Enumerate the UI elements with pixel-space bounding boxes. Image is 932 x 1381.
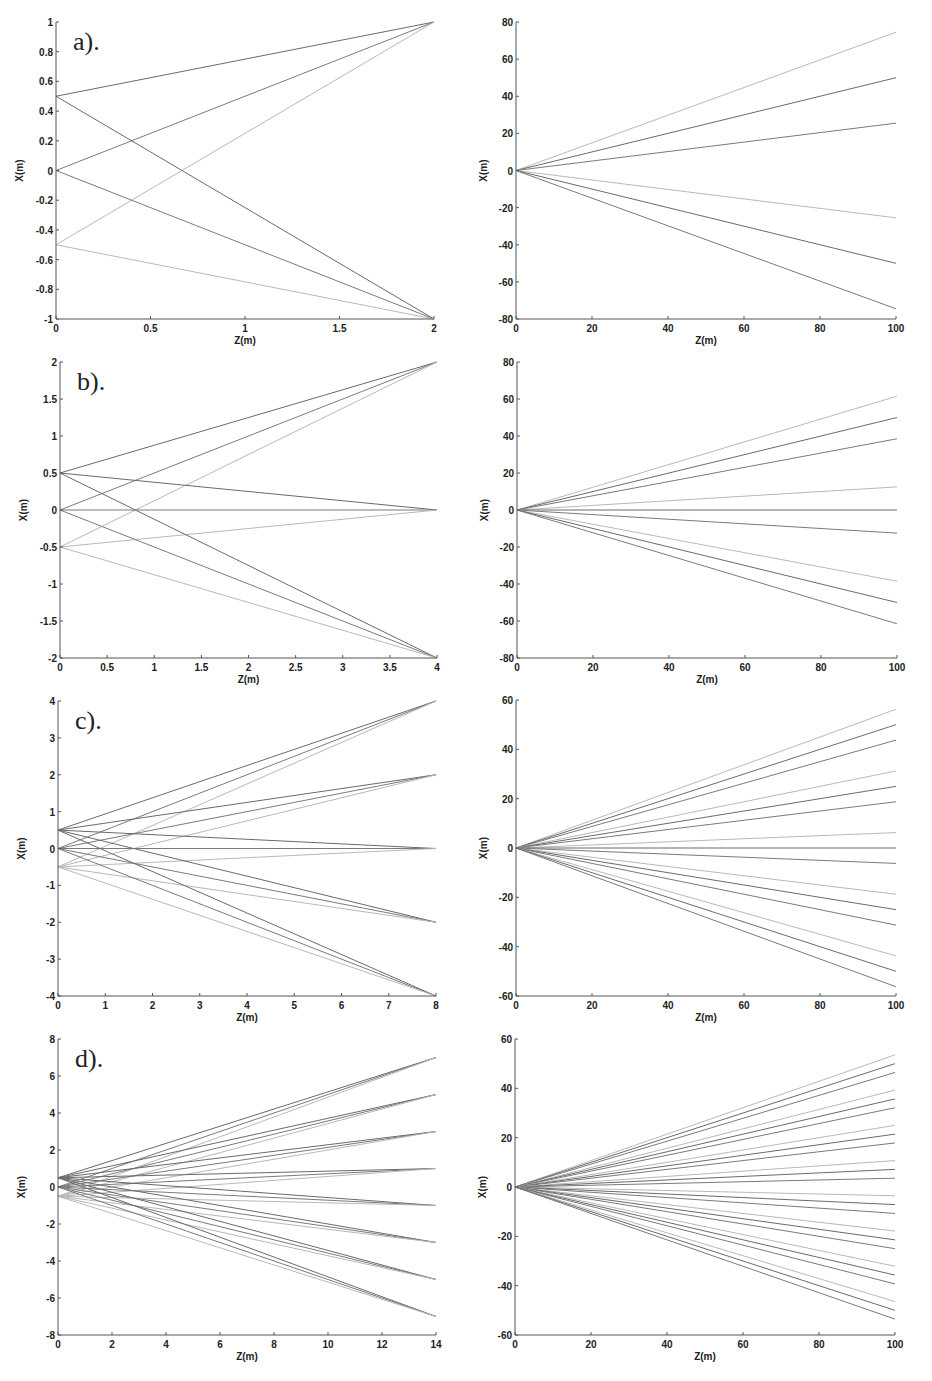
y-tick-label: 8 [49, 1034, 55, 1045]
chart-panel-a-right: 020406080100-80-60-40-20020406080Z(m)X(m… [478, 17, 905, 346]
ray-line [58, 701, 436, 849]
x-tick-label: 40 [662, 323, 674, 334]
ray-line [56, 171, 434, 320]
ray-line [56, 22, 434, 96]
x-tick-label: 10 [322, 1339, 334, 1350]
data-lines [516, 32, 896, 309]
y-tick-label: 1 [47, 17, 53, 28]
y-tick-label: 0 [49, 1182, 55, 1193]
data-lines [58, 1058, 436, 1317]
ray-line [58, 849, 436, 997]
panel-label: d). [75, 1044, 103, 1073]
ray-line [58, 775, 436, 849]
y-tick-label: -3 [46, 954, 55, 965]
y-tick-label: -2 [46, 917, 55, 928]
ray-line [56, 22, 434, 245]
chart-panel-b-right: 020406080100-80-60-40-20020406080Z(m)X(m… [479, 357, 906, 685]
x-tick-label: 0 [513, 1000, 519, 1011]
ray-line [515, 1187, 895, 1319]
ray-line [58, 1196, 436, 1279]
y-tick-label: -0.6 [36, 255, 54, 266]
y-tick-label: 0.8 [39, 47, 53, 58]
x-tick-label: 4 [163, 1339, 169, 1350]
ray-line [60, 362, 437, 473]
ray-line [516, 740, 896, 848]
y-tick-label: 4 [49, 1108, 55, 1119]
ray-line [516, 171, 896, 264]
y-tick-label: 0 [507, 166, 513, 177]
ray-line [515, 1187, 895, 1310]
y-axis-label: X(m) [478, 159, 489, 181]
y-tick-label: 3 [49, 733, 55, 744]
ray-line [516, 848, 896, 894]
y-tick-label: 60 [502, 695, 514, 706]
x-tick-label: 0 [55, 1339, 61, 1350]
x-tick-label: 2 [246, 662, 252, 673]
y-tick-label: -2 [48, 653, 57, 664]
ray-line [58, 701, 436, 867]
ray-line [58, 775, 436, 867]
y-tick-label: 2 [49, 1145, 55, 1156]
x-axis-label: Z(m) [236, 1351, 258, 1362]
ray-line [517, 487, 897, 510]
ray-line [58, 830, 436, 996]
y-tick-label: -0.5 [40, 542, 58, 553]
y-tick-label: -4 [46, 991, 55, 1002]
y-tick-label: -60 [498, 1330, 513, 1341]
ray-line [516, 848, 896, 987]
x-tick-label: 100 [888, 323, 905, 334]
y-tick-label: -6 [46, 1293, 55, 1304]
x-tick-label: 6 [339, 1000, 345, 1011]
ray-line [517, 439, 897, 510]
y-tick-label: 20 [501, 1133, 513, 1144]
ray-line [516, 709, 896, 848]
y-tick-label: -80 [500, 653, 515, 664]
x-tick-label: 3 [197, 1000, 203, 1011]
x-tick-label: 20 [587, 662, 599, 673]
ray-line [517, 510, 897, 581]
y-tick-label: -80 [499, 314, 514, 325]
y-tick-label: -40 [499, 240, 514, 251]
x-tick-label: 20 [586, 1000, 598, 1011]
y-tick-label: 20 [503, 468, 515, 479]
y-tick-label: -0.8 [36, 284, 54, 295]
y-tick-label: -1 [46, 880, 55, 891]
ray-line [60, 473, 437, 658]
ray-line [60, 510, 437, 658]
y-tick-label: 40 [503, 431, 515, 442]
x-tick-label: 5 [291, 1000, 297, 1011]
x-axis-label: Z(m) [695, 335, 717, 346]
figure-canvas: 00.511.52-1-0.8-0.6-0.4-0.200.20.40.60.8… [0, 0, 932, 1381]
ray-line [516, 171, 896, 218]
ray-line [517, 510, 897, 624]
ray-line [515, 1055, 895, 1187]
y-axis-label: X(m) [18, 499, 29, 521]
ray-line [58, 830, 436, 922]
y-tick-label: 20 [502, 794, 514, 805]
y-tick-label: -40 [498, 1281, 513, 1292]
panel-label: b). [77, 367, 105, 396]
x-tick-label: 80 [814, 1000, 826, 1011]
y-tick-label: 40 [501, 1083, 513, 1094]
data-lines [56, 22, 434, 319]
y-tick-label: 4 [49, 696, 55, 707]
y-tick-label: 0 [508, 505, 514, 516]
x-tick-label: 0 [513, 323, 519, 334]
x-tick-label: 1 [242, 323, 248, 334]
ray-line [516, 833, 896, 848]
ray-line [56, 22, 434, 171]
y-tick-label: 0.5 [43, 468, 57, 479]
ray-line [516, 848, 896, 971]
axes [515, 1039, 895, 1335]
x-tick-label: 80 [813, 1339, 825, 1350]
x-tick-label: 0 [514, 662, 520, 673]
x-tick-label: 60 [739, 662, 751, 673]
ray-line [60, 547, 437, 658]
y-tick-label: 1.5 [43, 394, 57, 405]
ray-line [516, 848, 896, 956]
y-tick-label: 0 [507, 843, 513, 854]
ray-line [60, 362, 437, 547]
y-tick-label: 6 [49, 1071, 55, 1082]
ray-line [516, 848, 896, 910]
y-tick-label: -60 [500, 616, 515, 627]
